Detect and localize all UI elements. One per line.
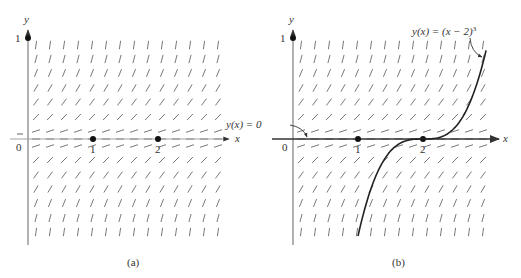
slope-segment <box>147 214 149 222</box>
slope-segment <box>216 199 219 207</box>
slope-segment <box>48 69 51 77</box>
slope-segment <box>202 69 205 77</box>
slope-segment <box>34 84 38 91</box>
slope-segment <box>297 145 305 148</box>
slope-segment <box>174 185 178 192</box>
slope-segment <box>63 55 65 63</box>
slope-segment <box>425 84 429 91</box>
slope-segment <box>481 69 484 77</box>
slope-segment <box>34 172 39 179</box>
slope-segment <box>369 99 374 106</box>
slope-segment <box>90 172 95 179</box>
slope-segment <box>383 172 388 179</box>
slope-segment <box>398 228 399 236</box>
slope-segment <box>328 41 329 49</box>
slope-segment <box>339 130 347 133</box>
slope-segment <box>145 157 151 163</box>
slope-segment <box>48 185 52 192</box>
slope-segment <box>439 199 442 207</box>
slope-segment <box>103 114 109 120</box>
slope-segment <box>425 99 430 106</box>
slope-segment <box>397 69 400 77</box>
equilibrium-point-1-b <box>355 136 361 142</box>
slope-segment <box>300 214 302 222</box>
slope-segment <box>132 172 137 179</box>
slope-segment <box>426 214 428 222</box>
slope-segment <box>175 55 177 63</box>
slope-segment <box>384 55 386 63</box>
slope-segment <box>201 157 207 163</box>
slope-segment <box>440 55 442 63</box>
y-axis-label-b: y <box>288 13 294 25</box>
x-axis-label-a: x <box>234 132 240 144</box>
slope-segment <box>356 228 357 236</box>
slope-segment <box>479 145 487 148</box>
slope-segment <box>313 185 317 192</box>
slope-segment <box>452 114 458 120</box>
slope-segment <box>75 157 81 163</box>
slope-segment <box>439 69 442 77</box>
slope-segment <box>60 145 68 148</box>
slope-segment <box>63 41 64 49</box>
slope-segment <box>48 172 53 179</box>
slope-segment <box>423 130 431 133</box>
slope-segment <box>188 199 191 207</box>
cubic-solution-label: y(x) = (x − 2)3 <box>411 25 477 38</box>
slope-segment <box>355 199 358 207</box>
slope-segment <box>327 99 332 106</box>
y-axis-label-a: y <box>23 13 29 25</box>
slope-segment <box>424 114 430 120</box>
slope-segment <box>174 199 177 207</box>
slope-segment <box>202 199 205 207</box>
slope-segment <box>300 228 301 236</box>
slope-segment <box>465 130 473 133</box>
slope-segment <box>383 199 386 207</box>
slope-segment <box>60 130 68 133</box>
slope-segment <box>116 145 124 148</box>
slope-segment <box>172 145 180 148</box>
slope-segment <box>326 157 332 163</box>
slope-segment <box>105 41 106 49</box>
slope-segment <box>395 130 403 133</box>
slope-segment <box>203 214 205 222</box>
slope-segment <box>355 84 359 91</box>
slope-segment <box>341 99 346 106</box>
slope-segment <box>299 185 303 192</box>
slope-segment <box>454 55 456 63</box>
slope-segment <box>453 172 458 179</box>
slope-segment <box>201 114 207 120</box>
slope-segment <box>313 99 318 106</box>
slope-segment <box>314 228 315 236</box>
slope-segment <box>146 172 151 179</box>
cubic-solution-pointer <box>470 38 482 57</box>
slope-segment <box>175 228 176 236</box>
slope-segment <box>175 41 176 49</box>
slope-segment <box>104 84 108 91</box>
slope-segment <box>398 214 400 222</box>
slope-segment <box>412 214 414 222</box>
point-y1-b <box>290 35 296 41</box>
slope-segment <box>439 172 444 179</box>
slope-segment <box>104 69 107 77</box>
slope-segment <box>35 228 36 236</box>
slope-segment <box>382 114 388 120</box>
slope-segment <box>62 185 66 192</box>
slope-segment <box>188 185 192 192</box>
slope-segment <box>63 228 64 236</box>
slope-segment <box>481 84 485 91</box>
slope-segment <box>311 130 319 133</box>
slope-segment <box>77 41 78 49</box>
slope-segment <box>353 130 361 133</box>
slope-segment <box>339 145 347 148</box>
slope-segment <box>63 214 65 222</box>
slope-segment <box>32 145 40 148</box>
slope-segment <box>412 228 413 236</box>
origin-label-b: 0 <box>282 141 288 153</box>
slope-segment <box>340 157 346 163</box>
slope-segment <box>61 114 67 120</box>
slope-segment <box>216 84 220 91</box>
slope-segment <box>187 157 193 163</box>
slope-segment <box>105 228 106 236</box>
slope-segment <box>467 185 471 192</box>
slope-segment <box>482 41 483 49</box>
